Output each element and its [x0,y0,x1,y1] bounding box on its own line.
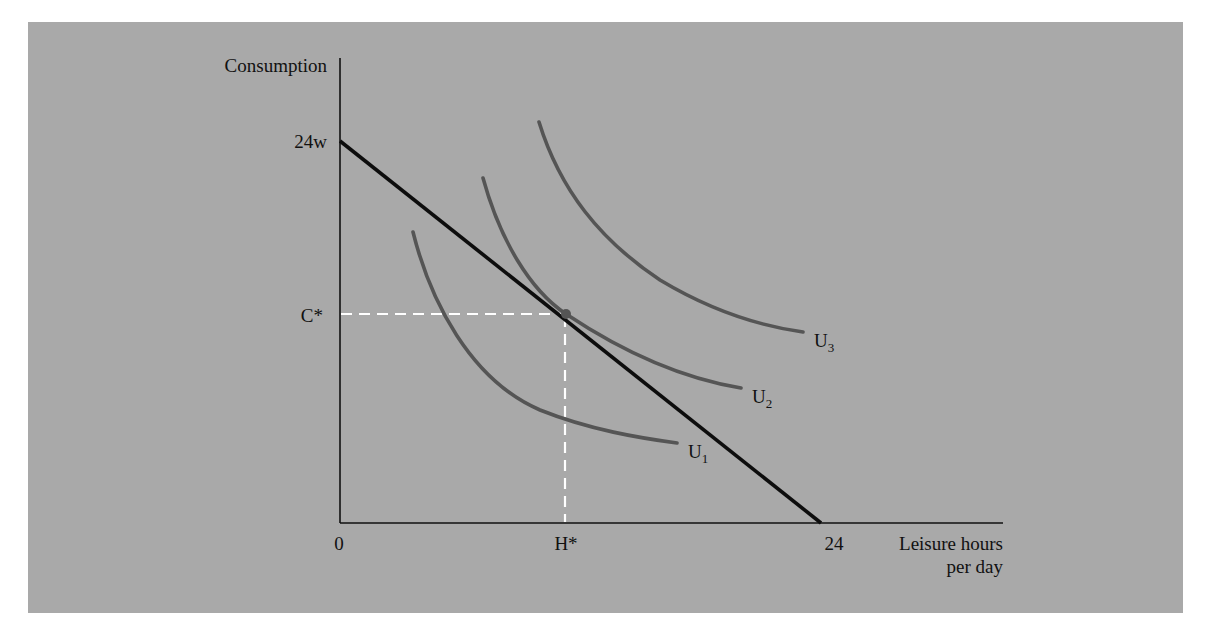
y-tick-cstar: C* [301,305,323,326]
u1-label: U1 [688,441,708,466]
x-axis-label-line2: per day [947,556,1004,577]
y-tick-24w: 24w [294,131,327,152]
u2-label: U2 [752,386,772,411]
budget-line [340,141,821,523]
x-tick-24: 24 [825,533,845,554]
optimum-point [561,309,571,319]
x-tick-zero: 0 [334,533,344,554]
x-axis-label-line1: Leisure hours [899,533,1003,554]
labor-leisure-chart: Consumption 24w C* 0 H* 24 Leisure hours… [0,0,1206,634]
x-tick-hstar: H* [554,533,577,554]
indifference-curve-u3 [539,122,803,332]
y-axis-label: Consumption [225,55,328,76]
u3-label: U3 [814,330,834,355]
